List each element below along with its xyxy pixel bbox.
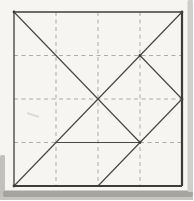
right-scan-band [188,0,194,192]
scanned-diagram-page [0,0,193,200]
vertex-right-mid-edge [181,98,184,101]
tangram-dissection-diagram [0,0,193,200]
bottom-scan-strip [0,197,193,201]
vertex-lower-cut-junction [139,141,142,144]
vertex-bottom-left-corner [13,185,16,188]
vertex-top-left-corner [13,11,16,14]
bottom-scan-band [3,191,193,198]
vertex-top-right-corner [181,11,184,14]
vertex-upper-cut-junction [139,54,142,57]
